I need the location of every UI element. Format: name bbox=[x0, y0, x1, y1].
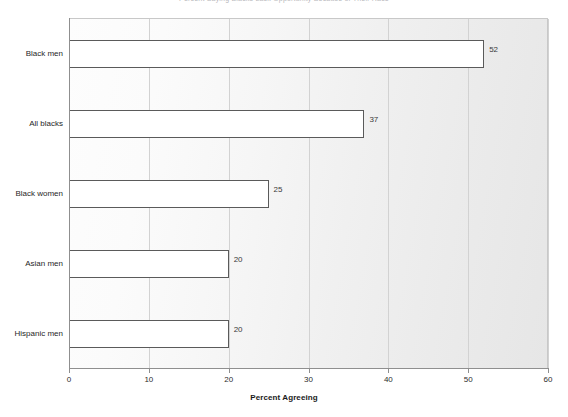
bar-value-label: 52 bbox=[489, 45, 498, 54]
bar bbox=[69, 180, 269, 208]
x-tick-label: 10 bbox=[134, 375, 164, 384]
bar-value-label: 25 bbox=[274, 185, 283, 194]
bar-row: 37 bbox=[69, 89, 548, 159]
x-tick bbox=[548, 368, 549, 373]
bar bbox=[69, 320, 229, 348]
x-tick bbox=[468, 368, 469, 373]
bar bbox=[69, 110, 364, 138]
x-tick-label: 50 bbox=[453, 375, 483, 384]
chart-title: Percent Saying Blacks Lack Opportunity B… bbox=[0, 0, 568, 3]
x-tick-label: 20 bbox=[214, 375, 244, 384]
x-tick bbox=[149, 368, 150, 373]
bar-value-label: 20 bbox=[234, 325, 243, 334]
bar-row: 52 bbox=[69, 19, 548, 89]
bar-series: 5237252020 bbox=[69, 19, 547, 368]
x-tick bbox=[309, 368, 310, 373]
bar-row: 25 bbox=[69, 159, 548, 229]
category-label: Asian men bbox=[0, 259, 63, 268]
category-label: All blacks bbox=[0, 119, 63, 128]
x-tick bbox=[388, 368, 389, 373]
plot-area: 5237252020 bbox=[69, 18, 548, 368]
x-tick-label: 30 bbox=[294, 375, 324, 384]
y-axis-line bbox=[69, 18, 70, 369]
bar bbox=[69, 250, 229, 278]
x-tick bbox=[229, 368, 230, 373]
category-label: Hispanic men bbox=[0, 329, 63, 338]
x-tick-label: 40 bbox=[373, 375, 403, 384]
bar-value-label: 37 bbox=[369, 115, 378, 124]
bar-row: 20 bbox=[69, 229, 548, 299]
bar-value-label: 20 bbox=[234, 255, 243, 264]
x-tick bbox=[69, 368, 70, 373]
x-tick-label: 60 bbox=[533, 375, 563, 384]
category-label: Black men bbox=[0, 49, 63, 58]
category-label: Black women bbox=[0, 189, 63, 198]
bar bbox=[69, 40, 484, 68]
gridline-60 bbox=[548, 19, 549, 368]
bar-row: 20 bbox=[69, 299, 548, 369]
x-axis-title: Percent Agreeing bbox=[0, 393, 568, 402]
bar-chart: Percent Saying Blacks Lack Opportunity B… bbox=[0, 0, 568, 417]
x-tick-label: 0 bbox=[54, 375, 84, 384]
